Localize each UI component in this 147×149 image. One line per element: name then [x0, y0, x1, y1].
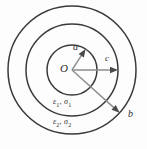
- radius-label-b: b: [128, 109, 133, 119]
- center-label: O: [60, 63, 68, 74]
- medium-label-outer: ε2, σ2: [53, 118, 71, 128]
- medium-label-inner: ε1, σ1: [53, 98, 71, 108]
- concentric-circles-figure: O a c b ε1, σ1 ε2, σ2: [0, 0, 147, 149]
- arrowhead-a: [79, 49, 86, 58]
- radius-arrow-a: [72, 49, 86, 70]
- radius-label-c: c: [105, 54, 109, 63]
- radius-label-a: a: [73, 42, 78, 52]
- radius-arrow-c: [72, 67, 118, 73]
- sigma-index-1: 1: [68, 102, 71, 108]
- figure-canvas: [0, 0, 147, 149]
- arrowhead-c: [110, 67, 118, 73]
- sigma-index-2: 2: [68, 122, 71, 128]
